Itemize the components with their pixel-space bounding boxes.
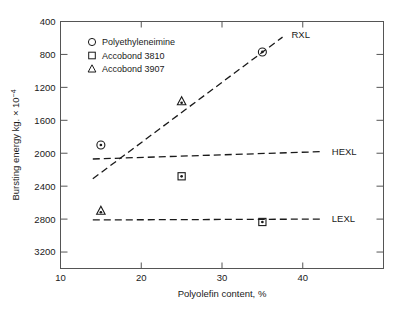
trend-line-lexl	[93, 219, 323, 220]
trend-label-hexl: HEXL	[332, 146, 357, 157]
trend-line-hexl	[93, 152, 323, 159]
y-tick-label: 3200	[34, 246, 55, 257]
y-tick-label: 1600	[34, 115, 55, 126]
chart-figure: 32002800240020001600120080040010203040Po…	[0, 0, 402, 312]
legend-label: Polyethyleneimine	[102, 37, 175, 47]
y-tick-label: 400	[40, 16, 56, 27]
trend-label-lexl: LEXL	[332, 213, 355, 224]
data-point-circle-center	[261, 51, 264, 54]
data-point-triangle-center	[100, 211, 103, 214]
y-axis-title: Bursting energy kg. × 10−4	[10, 89, 22, 200]
legend-marker-triangle	[88, 65, 96, 72]
y-tick-label: 2800	[34, 214, 55, 225]
x-axis-title: Polyolefin content, %	[178, 288, 267, 299]
x-tick-label: 40	[297, 272, 308, 283]
y-tick-label: 1200	[34, 82, 55, 93]
data-point-square-center	[261, 221, 264, 224]
y-tick-label: 2400	[34, 181, 55, 192]
scatter-plot: 32002800240020001600120080040010203040Po…	[0, 0, 402, 312]
trend-label-rxl: RXL	[291, 29, 309, 40]
x-tick-label: 30	[217, 272, 228, 283]
legend-label: Accobond 3907	[102, 64, 165, 74]
data-point-square-center	[180, 175, 183, 178]
data-point-triangle-center	[180, 101, 183, 104]
y-tick-label: 800	[40, 49, 56, 60]
data-point-circle-center	[100, 144, 103, 147]
x-tick-label: 20	[136, 272, 147, 283]
y-tick-label: 2000	[34, 148, 55, 159]
legend-marker-circle	[88, 38, 95, 45]
x-tick-label: 10	[55, 272, 66, 283]
legend-marker-square	[89, 52, 96, 59]
legend-label: Accobond 3810	[102, 51, 165, 61]
